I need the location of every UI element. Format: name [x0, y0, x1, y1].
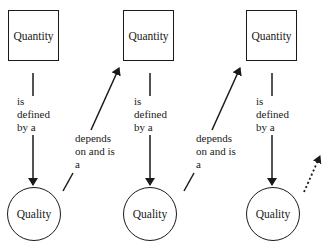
line-segment	[184, 173, 194, 191]
quantity-node-1: Quantity	[8, 10, 59, 61]
quality-label: Quality	[133, 208, 168, 220]
dotted-arrow-icon	[304, 156, 320, 192]
quality-label: Quality	[256, 208, 291, 220]
edge-depends-on-2	[184, 68, 240, 191]
quantity-node-2: Quantity	[123, 10, 174, 61]
quantity-label: Quantity	[128, 30, 168, 42]
edge-depends-on-1	[63, 68, 119, 191]
edge-label-is-defined-by-3: is defined by a	[256, 95, 289, 134]
quantity-quality-diagram: Quantity Quantity Quantity Quality Quali…	[0, 0, 330, 252]
edge-label-depends-on-1: depends on and is a	[75, 132, 115, 171]
arrow-up-right-icon	[212, 68, 240, 130]
quality-label: Quality	[17, 208, 52, 220]
edge-continues-dotted	[304, 156, 320, 192]
quantity-label: Quantity	[13, 30, 53, 42]
edge-label-depends-on-2: depends on and is a	[196, 132, 236, 171]
quantity-label: Quantity	[251, 30, 291, 42]
quantity-node-3: Quantity	[246, 10, 297, 61]
quality-node-1: Quality	[7, 187, 61, 241]
quality-node-2: Quality	[123, 187, 177, 241]
edge-label-is-defined-by-2: is defined by a	[134, 95, 167, 134]
line-segment	[63, 173, 73, 191]
edge-label-is-defined-by-1: is defined by a	[17, 95, 50, 134]
arrow-up-right-icon	[91, 68, 119, 130]
quality-node-3: Quality	[246, 187, 300, 241]
